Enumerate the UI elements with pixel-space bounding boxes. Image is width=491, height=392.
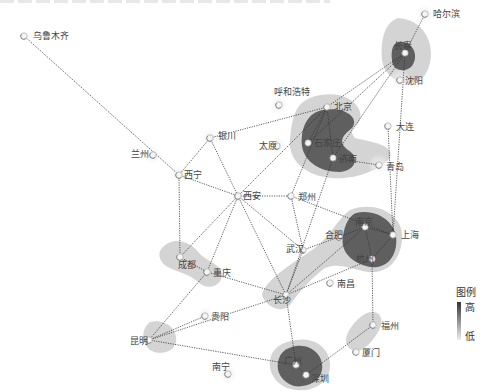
city-label: 石家庄	[314, 137, 341, 148]
city-label: 大连	[396, 121, 414, 132]
city-label: 上海	[401, 229, 419, 240]
city-label: 昆明	[130, 336, 148, 346]
city-dot-icon	[327, 280, 333, 286]
legend-high-label: 高	[465, 299, 475, 314]
city-dot-icon	[324, 104, 330, 110]
city-dot-icon	[422, 11, 428, 17]
city-dot-icon	[385, 123, 391, 129]
city-dot-icon	[390, 232, 396, 238]
city-label: 武汉	[286, 243, 304, 254]
city-label: 贵阳	[211, 311, 229, 322]
city-label: 哈尔滨	[433, 8, 460, 19]
legend-gradient-bar	[457, 302, 461, 340]
city-marker[interactable]: 郑州	[288, 191, 316, 202]
legend: 图例 高 低	[456, 287, 486, 299]
city-dot-icon	[176, 172, 182, 178]
city-label: 广州	[284, 355, 302, 366]
city-dot-icon	[207, 135, 213, 141]
city-label: 长沙	[273, 294, 291, 305]
city-label: 长春	[394, 40, 412, 51]
city-label: 西宁	[184, 169, 202, 180]
city-dot-icon	[376, 162, 382, 168]
route-link	[291, 196, 303, 250]
route-link	[207, 196, 238, 272]
city-label: 南宁	[212, 361, 230, 372]
route-link	[180, 196, 238, 257]
city-dot-icon	[397, 77, 403, 83]
city-dot-icon	[235, 193, 241, 199]
city-marker[interactable]: 武汉	[286, 243, 306, 254]
legend-low-label: 低	[465, 328, 475, 343]
city-label: 乌鲁木齐	[33, 30, 69, 41]
city-dot-icon	[150, 152, 156, 158]
city-label: 合肥	[325, 229, 343, 240]
city-label: 太原	[259, 140, 277, 151]
city-dot-icon	[303, 372, 309, 378]
city-dot-icon	[204, 269, 210, 275]
city-label: 呼和浩特	[274, 86, 310, 97]
city-label: 北京	[334, 101, 352, 112]
city-marker[interactable]: 厦门	[353, 347, 380, 358]
city-dot-icon	[276, 102, 282, 108]
city-label: 深圳	[311, 374, 329, 384]
city-dot-icon	[288, 193, 294, 199]
city-label: 厦门	[362, 347, 380, 358]
route-link	[238, 196, 303, 250]
city-label: 南京	[355, 216, 373, 227]
city-marker[interactable]: 合肥	[325, 229, 343, 240]
city-label: 郑州	[298, 191, 316, 202]
city-dot-icon	[202, 313, 208, 319]
heat-zone-fujian-low	[346, 312, 381, 351]
city-label: 济南	[339, 153, 357, 164]
city-dot-icon	[353, 349, 359, 355]
city-label: 成都	[178, 259, 196, 270]
city-label: 青岛	[386, 161, 404, 172]
city-marker[interactable]: 杭州	[356, 253, 375, 264]
heat-zones	[143, 18, 431, 390]
city-dot-icon	[21, 33, 27, 39]
city-dot-icon	[305, 140, 311, 146]
city-label: 银川	[218, 130, 236, 141]
city-label: 杭州	[356, 253, 374, 264]
city-label: 西安	[243, 190, 261, 201]
city-label: 沈阳	[405, 75, 423, 86]
city-marker[interactable]: 大连	[385, 121, 414, 132]
city-label: 福州	[381, 320, 399, 331]
city-dot-icon	[330, 155, 336, 161]
route-link	[210, 138, 238, 196]
city-label: 南昌	[337, 278, 355, 289]
city-label: 重庆	[213, 267, 231, 278]
city-marker[interactable]: 南昌	[327, 278, 355, 289]
china-city-network-map: 乌鲁木齐哈尔滨长春沈阳呼和浩特北京大连银川兰州太原石家庄济南青岛西宁西安郑州南京…	[0, 0, 491, 392]
legend-title: 图例	[456, 287, 486, 299]
city-label: 兰州	[131, 148, 149, 159]
city-dot-icon	[370, 322, 376, 328]
